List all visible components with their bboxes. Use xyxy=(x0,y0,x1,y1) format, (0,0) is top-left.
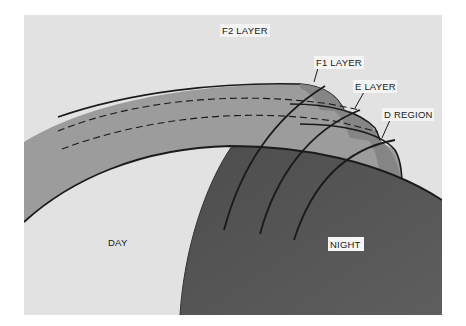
label-night-text: NIGHT xyxy=(330,239,361,250)
label-d-region: D REGION xyxy=(382,108,434,121)
label-f1-layer-text: F1 LAYER xyxy=(316,57,362,68)
label-day: DAY xyxy=(108,237,128,248)
label-f1-layer: F1 LAYER xyxy=(314,56,364,69)
label-e-layer: E LAYER xyxy=(353,80,397,93)
label-e-layer-text: E LAYER xyxy=(355,81,396,92)
ionosphere-diagram: F2 LAYER F1 LAYER E LAYER D REGION DAY N… xyxy=(0,0,466,326)
label-f2-layer: F2 LAYER xyxy=(220,24,270,37)
label-f2-layer-text: F2 LAYER xyxy=(222,25,268,36)
label-d-region-text: D REGION xyxy=(384,109,433,120)
label-night: NIGHT xyxy=(328,237,364,251)
